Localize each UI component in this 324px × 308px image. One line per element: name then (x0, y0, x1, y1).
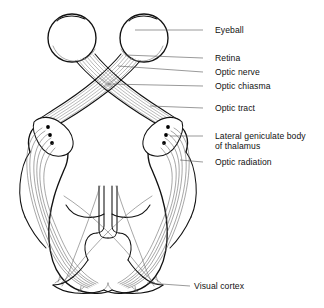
lateral-geniculate-body-right (143, 117, 183, 156)
label-optic-nerve: Optic nerve (215, 67, 260, 77)
label-eyeball: Eyeball (215, 25, 244, 35)
label-lateral-geniculate-body: Lateral geniculate body (215, 131, 306, 141)
eyeball-left (48, 14, 96, 62)
lateral-geniculate-body-left (33, 117, 73, 156)
label-lateral-geniculate-body-line2: of thalamus (215, 141, 260, 151)
label-optic-tract: Optic tract (215, 103, 255, 113)
label-retina: Retina (215, 53, 240, 63)
leader-optic-chiasma (108, 84, 203, 86)
label-optic-radiation: Optic radiation (215, 157, 272, 167)
visual-pathway-figure: Eyeball Retina Optic nerve Optic chiasma… (0, 0, 324, 308)
optic-pathway-fibers (38, 54, 178, 131)
anatomy-drawing (0, 0, 324, 308)
label-optic-chiasma: Optic chiasma (215, 81, 271, 91)
label-visual-cortex: Visual cortex (194, 281, 244, 291)
